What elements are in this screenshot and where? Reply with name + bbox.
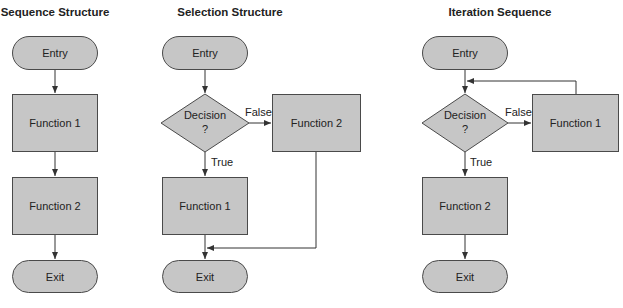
exit-label: Exit bbox=[46, 271, 64, 283]
iteration-true-label: True bbox=[470, 156, 492, 168]
decision-mark: ? bbox=[175, 122, 235, 136]
decision-label: Decision bbox=[175, 108, 235, 122]
function1-label: Function 1 bbox=[550, 117, 601, 129]
function1-label: Function 1 bbox=[179, 200, 230, 212]
function2-label: Function 2 bbox=[291, 117, 342, 129]
sequence-structure-title: Sequence Structure bbox=[0, 6, 110, 18]
decision-mark: ? bbox=[435, 122, 495, 136]
iteration-exit-node: Exit bbox=[422, 260, 508, 293]
selection-function2-node: Function 2 bbox=[272, 94, 361, 152]
entry-label: Entry bbox=[452, 47, 478, 59]
sequence-function2-node: Function 2 bbox=[12, 177, 98, 235]
exit-label: Exit bbox=[456, 271, 474, 283]
entry-label: Entry bbox=[192, 47, 218, 59]
selection-entry-node: Entry bbox=[162, 36, 248, 70]
selection-false-label: False bbox=[245, 106, 272, 118]
function2-label: Function 2 bbox=[29, 200, 80, 212]
iteration-function1-node: Function 1 bbox=[532, 94, 619, 152]
entry-label: Entry bbox=[42, 47, 68, 59]
selection-function1-node: Function 1 bbox=[162, 177, 248, 235]
selection-true-label: True bbox=[211, 156, 233, 168]
exit-label: Exit bbox=[196, 271, 214, 283]
selection-exit-node: Exit bbox=[162, 260, 248, 293]
sequence-function1-node: Function 1 bbox=[12, 94, 98, 152]
iteration-entry-node: Entry bbox=[422, 36, 508, 70]
selection-decision-node: Decision ? bbox=[175, 108, 235, 136]
iteration-function2-node: Function 2 bbox=[422, 177, 508, 235]
iteration-sequence-title: Iteration Sequence bbox=[440, 6, 560, 18]
function1-label: Function 1 bbox=[29, 117, 80, 129]
sequence-entry-node: Entry bbox=[12, 36, 98, 70]
function2-label: Function 2 bbox=[439, 200, 490, 212]
selection-structure-title: Selection Structure bbox=[160, 6, 300, 18]
iteration-false-label: False bbox=[505, 106, 532, 118]
sequence-exit-node: Exit bbox=[12, 260, 98, 293]
decision-label: Decision bbox=[435, 108, 495, 122]
iteration-decision-node: Decision ? bbox=[435, 108, 495, 136]
